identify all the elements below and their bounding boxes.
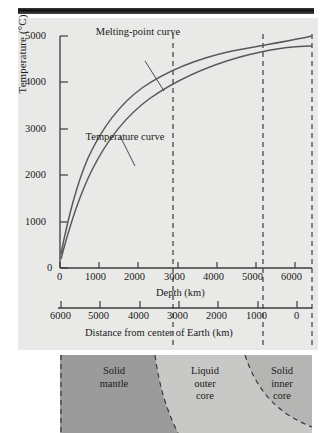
x-tick-label-0: 0 (57, 272, 62, 283)
secondary-axis-title: Distance from center of Earth (km) (85, 328, 233, 339)
dist-tick-label-3000: 3000 (167, 311, 188, 322)
solid-inner-core-label: Solid inner core (258, 365, 306, 403)
dist-tick-label-6000: 6000 (50, 311, 71, 322)
solid-inner-core-label-line3: core (258, 390, 306, 403)
melting-point-curve (61, 36, 312, 254)
solid-inner-core-label-line1: Solid (258, 365, 306, 378)
liquid-outer-core-label: Liquid outer core (180, 365, 230, 403)
solid-inner-core-label-line2: inner (258, 378, 306, 391)
dist-tick-label-0: 0 (294, 311, 299, 322)
x-tick-label-6000: 6000 (281, 272, 302, 283)
liquid-outer-core-label-line2: outer (180, 378, 230, 391)
axis-lines (60, 36, 312, 268)
x-tick-label-1000: 1000 (85, 272, 106, 283)
dist-tick-label-5000: 5000 (88, 311, 109, 322)
x-tick-label-2000: 2000 (124, 272, 145, 283)
x-tick-label-5000: 5000 (242, 272, 263, 283)
temperature-curve (61, 46, 312, 259)
secondary-axis-ticks (61, 301, 297, 308)
y-tick-label-5000: 5000 (25, 31, 46, 42)
y-axis-ticks (60, 36, 68, 268)
x-tick-label-3000: 3000 (164, 272, 185, 283)
temperature-curve-label-line1: Temperature curve (80, 131, 170, 143)
solid-mantle-label-line2: mantle (78, 378, 150, 391)
liquid-outer-core-label-line1: Liquid (180, 365, 230, 378)
y-tick-label-0: 0 (47, 263, 52, 274)
chart-svg (18, 18, 318, 350)
chart-panel: Temperature (°C) (18, 18, 318, 350)
temperature-curve-label: Temperature curve (80, 131, 170, 143)
y-tick-label-3000: 3000 (25, 124, 46, 135)
x-axis-title: Depth (km) (156, 288, 205, 299)
solid-mantle-label: Solid mantle (78, 365, 150, 390)
header-rule-bar (18, 8, 314, 14)
earth-layers-diagram: Solid mantle Liquid outer core Solid inn… (60, 355, 318, 433)
melting-point-curve-label: Melting-point curve (93, 26, 183, 38)
melting-point-curve-label-line1: Melting-point curve (93, 26, 183, 38)
boundary-lines (173, 34, 312, 348)
y-tick-label-2000: 2000 (25, 170, 46, 181)
solid-mantle-label-line1: Solid (78, 365, 150, 378)
x-axis-ticks (60, 262, 295, 268)
dist-tick-label-4000: 4000 (128, 311, 149, 322)
y-axis-title: Temperature (°C) (16, 0, 28, 114)
liquid-outer-core-label-line3: core (180, 390, 230, 403)
dist-tick-label-2000: 2000 (206, 311, 227, 322)
y-tick-label-1000: 1000 (25, 217, 46, 228)
y-tick-label-4000: 4000 (25, 77, 46, 88)
x-tick-label-4000: 4000 (203, 272, 224, 283)
dist-tick-label-1000: 1000 (246, 311, 267, 322)
